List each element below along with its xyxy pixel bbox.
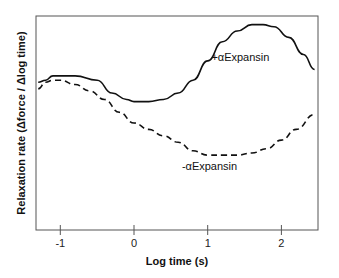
chart: -1012 +αExpansin -αExpansin Log time (s)… bbox=[0, 0, 339, 278]
plot-frame bbox=[36, 16, 318, 230]
x-tick-label: 0 bbox=[131, 237, 137, 249]
x-tick-label: 1 bbox=[205, 237, 211, 249]
x-tick-label: -1 bbox=[55, 237, 65, 249]
x-axis-ticks: -1012 bbox=[55, 225, 284, 249]
x-tick-label: 2 bbox=[278, 237, 284, 249]
y-axis-title: Relaxation rate (Δforce / Δlog time) bbox=[15, 31, 27, 215]
series-plus-expansin-line bbox=[38, 25, 314, 102]
annotation-minus-expansin: -αExpansin bbox=[182, 160, 237, 172]
x-axis-title: Log time (s) bbox=[146, 255, 209, 267]
plot-area: -1012 +αExpansin -αExpansin bbox=[36, 16, 318, 249]
annotation-plus-expansin: +αExpansin bbox=[211, 51, 269, 63]
series-minus-expansin-line bbox=[38, 80, 314, 155]
